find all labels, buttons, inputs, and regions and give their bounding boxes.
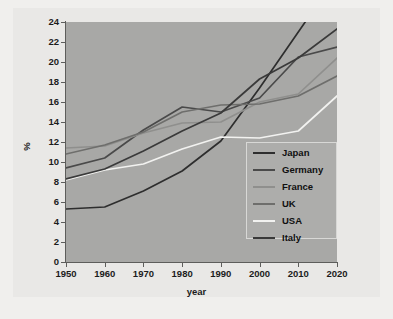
- x-tick-label: 1960: [85, 268, 125, 279]
- y-tick-mark: [61, 182, 65, 183]
- legend-swatch-icon: [253, 152, 275, 154]
- x-tick-label: 2020: [317, 268, 357, 279]
- y-tick-label: 16: [35, 97, 59, 106]
- y-tick-mark: [61, 202, 65, 203]
- legend-swatch-icon: [253, 220, 275, 222]
- y-tick-label: 20: [35, 57, 59, 66]
- chart-figure: 024681012141618202224 195019601970198019…: [0, 0, 393, 319]
- legend-item-label: France: [282, 182, 313, 192]
- legend-item-label: Germany: [282, 165, 323, 175]
- y-tick-mark: [61, 42, 65, 43]
- y-tick-mark: [61, 262, 65, 263]
- legend-swatch-icon: [253, 203, 275, 205]
- y-tick-label: 2: [35, 237, 59, 246]
- y-tick-mark: [61, 22, 65, 23]
- legend-item-france[interactable]: France: [247, 179, 336, 194]
- y-tick-label: 10: [35, 157, 59, 166]
- x-tick-mark: [105, 263, 106, 267]
- legend-swatch-icon: [253, 186, 275, 188]
- x-axis-line: [65, 262, 338, 263]
- x-tick-mark: [221, 263, 222, 267]
- chart-legend[interactable]: JapanGermanyFranceUKUSAItaly: [246, 142, 337, 239]
- legend-item-germany[interactable]: Germany: [247, 162, 336, 177]
- x-tick-label: 1990: [201, 268, 241, 279]
- y-tick-label: 18: [35, 77, 59, 86]
- y-tick-mark: [61, 62, 65, 63]
- legend-item-usa[interactable]: USA: [247, 213, 336, 228]
- legend-item-label: UK: [282, 199, 296, 209]
- y-tick-label: 6: [35, 197, 59, 206]
- x-tick-mark: [298, 263, 299, 267]
- y-tick-label: 8: [35, 177, 59, 186]
- y-tick-mark: [61, 82, 65, 83]
- y-tick-mark: [61, 142, 65, 143]
- legend-swatch-icon: [253, 169, 275, 171]
- legend-item-label: USA: [282, 216, 302, 226]
- x-tick-label: 1980: [162, 268, 202, 279]
- y-axis-line: [65, 21, 66, 263]
- y-tick-label: 22: [35, 37, 59, 46]
- x-axis-title: year: [0, 286, 393, 297]
- legend-item-uk[interactable]: UK: [247, 196, 336, 211]
- y-tick-label: 12: [35, 137, 59, 146]
- y-tick-mark: [61, 122, 65, 123]
- legend-item-label: Italy: [282, 233, 301, 243]
- y-tick-mark: [61, 162, 65, 163]
- legend-item-italy[interactable]: Italy: [247, 230, 336, 245]
- legend-swatch-icon: [253, 237, 275, 239]
- y-tick-mark: [61, 102, 65, 103]
- x-tick-mark: [260, 263, 261, 267]
- x-tick-label: 1950: [46, 268, 86, 279]
- y-tick-mark: [61, 222, 65, 223]
- y-tick-label: 24: [35, 17, 59, 26]
- y-tick-mark: [61, 242, 65, 243]
- y-tick-label: 0: [35, 257, 59, 266]
- x-tick-label: 2010: [278, 268, 318, 279]
- y-tick-label: 4: [35, 217, 59, 226]
- y-tick-label: 14: [35, 117, 59, 126]
- series-line: [66, 58, 337, 148]
- x-tick-mark: [182, 263, 183, 267]
- legend-item-label: Japan: [282, 148, 309, 158]
- legend-item-japan[interactable]: Japan: [247, 145, 336, 160]
- x-tick-mark: [337, 263, 338, 267]
- x-tick-mark: [143, 263, 144, 267]
- x-tick-label: 1970: [123, 268, 163, 279]
- x-tick-mark: [66, 263, 67, 267]
- x-tick-label: 2000: [240, 268, 280, 279]
- y-axis-title: %: [21, 142, 32, 150]
